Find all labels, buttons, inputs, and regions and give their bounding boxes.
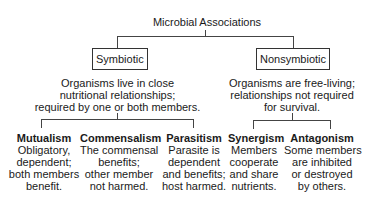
- description-line: are inhibited: [284, 156, 360, 168]
- connector-line: [41, 119, 193, 120]
- node-label: Mutualism: [8, 132, 80, 144]
- description-line: host harmed.: [160, 180, 228, 192]
- connector-line: [292, 113, 293, 120]
- connector-line: [253, 120, 330, 121]
- node-label: Synergism: [228, 132, 280, 144]
- description-line: not harmed.: [80, 180, 158, 192]
- node-label: Antagonism: [284, 132, 360, 144]
- symbiotic-box: Symbiotic: [92, 48, 148, 70]
- node-label: Commensalism: [80, 132, 158, 144]
- description-line: cooperate: [228, 156, 280, 168]
- parasitism-node: Parasitism Parasite is dependent and ben…: [160, 132, 228, 192]
- node-label: Parasitism: [160, 132, 228, 144]
- description-line: Some members: [284, 144, 360, 156]
- description-line: relationships not required: [222, 89, 362, 101]
- description-line: and share: [228, 168, 280, 180]
- description-line: by others.: [284, 180, 360, 192]
- description-line: Members: [228, 144, 280, 156]
- description-line: nutritional relationships;: [30, 89, 205, 101]
- antagonism-node: Antagonism Some members are inhibited or…: [284, 132, 360, 192]
- description-line: dependent: [160, 156, 228, 168]
- description-line: benefit.: [8, 180, 80, 192]
- description-line: and benefits;: [160, 168, 228, 180]
- connector-line: [193, 119, 194, 128]
- description-line: The commensal: [80, 144, 158, 156]
- connector-line: [117, 36, 293, 37]
- description-line: required by one or both members.: [30, 101, 205, 113]
- diagram-title: Microbial Associations: [137, 16, 277, 28]
- description-line: both members: [8, 168, 80, 180]
- nonsymbiotic-box: Nonsymbiotic: [256, 48, 330, 70]
- description-line: for survival.: [222, 101, 362, 113]
- connector-line: [41, 119, 42, 128]
- commensalism-node: Commensalism The commensal benefits; oth…: [80, 132, 158, 192]
- description-line: nutrients.: [228, 180, 280, 192]
- symbiotic-description: Organisms live in close nutritional rela…: [30, 77, 205, 113]
- synergism-node: Synergism Members cooperate and share nu…: [228, 132, 280, 192]
- description-line: Organisms are free-living;: [222, 77, 362, 89]
- description-line: Obligatory,: [8, 144, 80, 156]
- description-line: dependent;: [8, 156, 80, 168]
- description-line: other member: [80, 168, 158, 180]
- connector-line: [330, 120, 331, 129]
- description-line: benefits;: [80, 156, 158, 168]
- connector-line: [253, 120, 254, 129]
- description-line: or destroyed: [284, 168, 360, 180]
- mutualism-node: Mutualism Obligatory, dependent; both me…: [8, 132, 80, 192]
- description-line: Organisms live in close: [30, 77, 205, 89]
- nonsymbiotic-description: Organisms are free-living; relationships…: [222, 77, 362, 113]
- description-line: Parasite is: [160, 144, 228, 156]
